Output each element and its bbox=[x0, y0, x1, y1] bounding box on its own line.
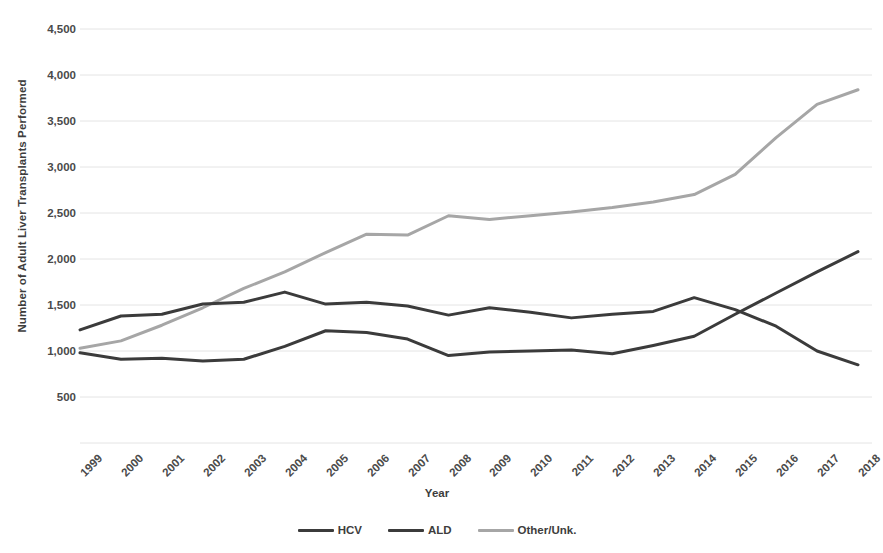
x-axis-title: Year bbox=[0, 487, 874, 499]
y-tick-label: 4,000 bbox=[24, 69, 76, 81]
chart-legend: HCVALDOther/Unk. bbox=[0, 524, 874, 536]
y-tick-label: 3,000 bbox=[24, 161, 76, 173]
legend-swatch-icon bbox=[478, 529, 514, 532]
y-tick-label: 3,500 bbox=[24, 115, 76, 127]
y-tick-label: 1,500 bbox=[24, 299, 76, 311]
legend-swatch-icon bbox=[298, 529, 334, 532]
gridlines bbox=[80, 29, 872, 443]
legend-label: HCV bbox=[338, 524, 362, 536]
y-tick-label: 500 bbox=[24, 391, 76, 403]
y-tick-label: 4,500 bbox=[24, 23, 76, 35]
y-tick-label: 2,000 bbox=[24, 253, 76, 265]
legend-label: Other/Unk. bbox=[518, 524, 577, 536]
legend-label: ALD bbox=[428, 524, 452, 536]
y-tick-label: 2,500 bbox=[24, 207, 76, 219]
y-tick-label: 1,000 bbox=[24, 345, 76, 357]
legend-swatch-icon bbox=[388, 529, 424, 532]
legend-item[interactable]: ALD bbox=[388, 524, 452, 536]
y-axis-title: Number of Adult Liver Transplants Perfor… bbox=[16, 36, 28, 376]
y-axis-tick-labels: 5001,0001,5002,0002,5003,0003,5004,0004,… bbox=[24, 0, 76, 553]
legend-item[interactable]: Other/Unk. bbox=[478, 524, 577, 536]
legend-item[interactable]: HCV bbox=[298, 524, 362, 536]
